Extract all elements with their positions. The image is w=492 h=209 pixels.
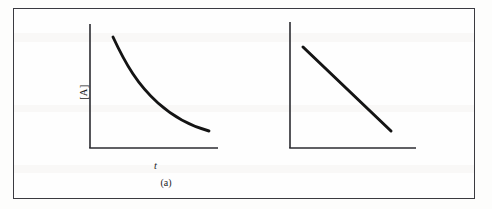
decay-curve-a xyxy=(113,37,209,131)
y-axis-label-a: [A] xyxy=(79,72,90,112)
plot-panel-b: ln [A]t t (b) xyxy=(245,9,476,200)
plot-b-svg xyxy=(245,9,476,200)
plot-a-svg xyxy=(14,9,245,200)
linear-plot-line-b xyxy=(303,47,391,131)
figure-frame: [A] t (a) ln [A]t t (b) xyxy=(13,8,475,199)
panel-caption-a: (a) xyxy=(146,177,186,188)
plot-panel-a: [A] t (a) xyxy=(14,9,245,200)
x-axis-label-a: t xyxy=(154,161,157,172)
